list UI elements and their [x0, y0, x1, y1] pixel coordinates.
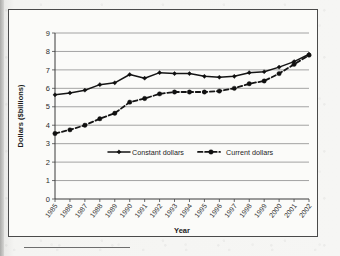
svg-text:1997: 1997 [223, 202, 238, 219]
svg-text:8: 8 [46, 47, 50, 56]
y-axis-tick-group: 0123456789 [46, 29, 55, 204]
legend-label-current-dollars: Current dollars [226, 148, 274, 157]
svg-text:1996: 1996 [208, 202, 223, 219]
chart-legend: Constant dollars Current dollars [108, 148, 274, 157]
svg-text:1989: 1989 [103, 202, 118, 219]
page-gutter-shadow [0, 0, 4, 256]
svg-text:4: 4 [46, 121, 50, 130]
svg-text:1998: 1998 [238, 202, 253, 219]
svg-text:2001: 2001 [283, 202, 298, 219]
svg-text:1995: 1995 [193, 202, 208, 219]
svg-text:5: 5 [46, 102, 50, 111]
legend-marker-constant-dollars [117, 150, 121, 154]
legend-label-constant-dollars: Constant dollars [132, 148, 184, 157]
svg-text:1986: 1986 [59, 202, 74, 219]
svg-text:2000: 2000 [268, 202, 283, 219]
svg-text:0: 0 [46, 195, 50, 204]
svg-text:1990: 1990 [118, 202, 133, 219]
gridline-group [55, 33, 309, 181]
svg-text:7: 7 [46, 66, 50, 75]
series-markers-constant-dollars [53, 52, 311, 97]
chart-plot-area: 0123456789 19851986198719881989199019911… [9, 10, 317, 236]
svg-text:1987: 1987 [74, 202, 89, 219]
svg-text:9: 9 [46, 29, 50, 38]
svg-text:1992: 1992 [148, 202, 163, 219]
line-chart: 0123456789 19851986198719881989199019911… [9, 10, 317, 236]
series-line-current-dollars [55, 55, 309, 133]
svg-text:2: 2 [46, 158, 50, 167]
svg-text:3: 3 [46, 139, 50, 148]
svg-text:1: 1 [46, 176, 50, 185]
y-axis-title: Dollars ($billions) [16, 84, 25, 147]
x-axis-tick-group: 1985198619871988198919901991199219931994… [44, 199, 313, 219]
legend-marker-current-dollars [209, 150, 214, 155]
figure-frame: 0123456789 19851986198719881989199019911… [8, 9, 318, 237]
svg-text:1999: 1999 [253, 202, 268, 219]
svg-text:1988: 1988 [89, 202, 104, 219]
svg-text:1991: 1991 [133, 202, 148, 219]
footnote-separator-rule [24, 247, 130, 248]
svg-text:1994: 1994 [178, 202, 193, 219]
svg-text:1985: 1985 [44, 202, 59, 219]
svg-text:2002: 2002 [298, 202, 313, 219]
x-axis-title: Year [174, 226, 190, 235]
svg-text:6: 6 [46, 84, 50, 93]
svg-text:1993: 1993 [163, 202, 178, 219]
